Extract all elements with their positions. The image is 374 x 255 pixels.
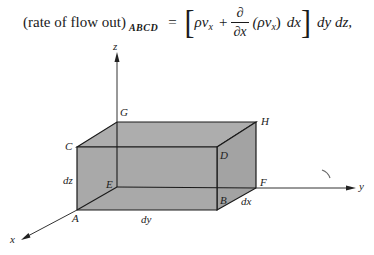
dx-label: dx bbox=[241, 195, 251, 207]
control-volume-diagram bbox=[0, 0, 374, 255]
z-axis-label: z bbox=[113, 40, 117, 52]
x-axis bbox=[26, 210, 77, 237]
vertex-G: G bbox=[120, 106, 128, 118]
y-axis-arrowhead bbox=[346, 186, 356, 191]
stray-mark bbox=[322, 170, 330, 178]
dy-label: dy bbox=[141, 213, 151, 225]
z-axis-arrowhead bbox=[115, 52, 120, 62]
x-axis-label: x bbox=[10, 233, 15, 245]
vertex-E: E bbox=[106, 178, 113, 190]
vertex-C: C bbox=[65, 140, 72, 152]
vertex-F: F bbox=[260, 176, 267, 188]
front-face bbox=[77, 147, 217, 210]
y-axis-label: y bbox=[359, 180, 364, 192]
x-axis-arrowhead bbox=[21, 233, 31, 240]
vertex-H: H bbox=[261, 115, 269, 127]
vertex-D: D bbox=[220, 149, 228, 161]
vertex-B: B bbox=[220, 194, 227, 206]
dz-label: dz bbox=[63, 174, 73, 186]
vertex-A: A bbox=[72, 212, 79, 224]
